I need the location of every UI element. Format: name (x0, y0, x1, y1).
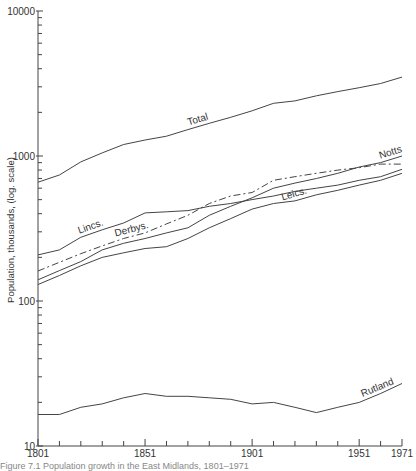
axis-ticks: 1010010001000018011851190119511971 (7, 6, 413, 460)
x-tick-label: 1971 (391, 448, 414, 459)
series-label: Total (186, 111, 209, 128)
y-tick-label: 1000 (13, 151, 36, 162)
x-tick-label: 1951 (348, 448, 371, 459)
x-tick-label: 1901 (241, 448, 264, 459)
x-tick-label: 1851 (134, 448, 157, 459)
series-labels: TotalLincs.Derbys.NottsLeics.Rutland (76, 111, 403, 399)
series-label: Lincs. (76, 217, 104, 236)
figure-caption: Figure 7.1 Population growth in the East… (0, 461, 416, 471)
x-tick-label: 1801 (27, 448, 50, 459)
series-lines (38, 77, 402, 414)
series-lincs-line (38, 169, 402, 255)
y-tick-label: 100 (18, 296, 35, 307)
series-label: Notts (377, 143, 403, 160)
series-label: Derbys. (113, 219, 149, 238)
y-axis-title: Population, thousands, (log. scale) (5, 157, 16, 303)
population-chart: 1010010001000018011851190119511971 Total… (0, 0, 416, 471)
series-label: Leics. (280, 185, 308, 203)
series-total-line (38, 77, 402, 182)
series-rutland-line (38, 384, 402, 415)
y-tick-label: 10000 (7, 6, 35, 17)
